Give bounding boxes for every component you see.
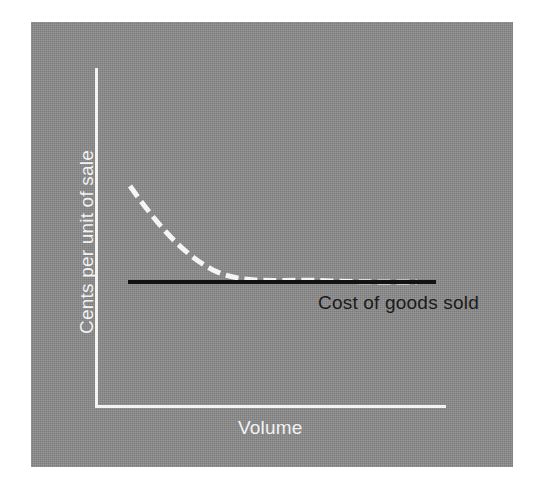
chart-plate: Cents per unit of sale Volume Cost of go… (31, 22, 513, 467)
cost-of-goods-sold-line (128, 280, 436, 284)
y-axis-label: Cents per unit of sale (76, 150, 98, 334)
unit-cost-curve (31, 22, 513, 467)
x-axis-label: Volume (238, 417, 303, 439)
figure-root: Cents per unit of sale Volume Cost of go… (0, 0, 544, 494)
cost-of-goods-sold-label: Cost of goods sold (318, 292, 479, 314)
